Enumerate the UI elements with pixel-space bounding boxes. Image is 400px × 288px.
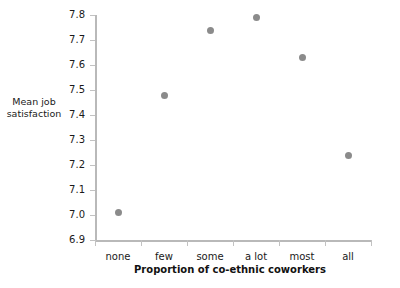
y-axis-tick	[90, 165, 95, 166]
x-axis-tick-label-all: all	[318, 251, 378, 262]
data-point	[161, 92, 168, 99]
y-axis-tick	[90, 215, 95, 216]
y-axis-tick	[90, 115, 95, 116]
y-axis-tick-label: 7.1	[51, 185, 85, 195]
y-axis-tick-label: 7.5	[51, 85, 85, 95]
y-axis-tick	[90, 15, 95, 16]
data-point	[345, 152, 352, 159]
y-axis-tick	[90, 90, 95, 91]
y-axis-tick	[90, 65, 95, 66]
x-axis-tick	[187, 240, 188, 246]
x-axis-tick	[279, 240, 280, 246]
data-point	[207, 27, 214, 34]
data-point	[253, 14, 260, 21]
y-axis-tick-label: 7.8	[51, 10, 85, 20]
y-axis-tick-label: 7.0	[51, 210, 85, 220]
x-axis-tick	[141, 240, 142, 246]
y-axis-tick	[90, 140, 95, 141]
y-axis-tick-label: 6.9	[51, 235, 85, 245]
x-axis-tick	[95, 240, 96, 246]
y-axis-tick-label: 7.4	[51, 110, 85, 120]
x-axis-tick	[325, 240, 326, 246]
y-axis-tick-label: 7.3	[51, 135, 85, 145]
y-axis-line	[95, 15, 97, 241]
y-axis-tick	[90, 40, 95, 41]
x-axis-tick	[371, 240, 372, 246]
y-axis-tick	[90, 190, 95, 191]
x-axis-title: Proportion of co-ethnic coworkers	[60, 264, 400, 275]
x-axis-tick	[233, 240, 234, 246]
data-point	[299, 54, 306, 61]
scatter-plot-figure: Mean job satisfaction 7.87.77.67.57.47.3…	[0, 0, 400, 288]
y-axis-tick-label: 7.2	[51, 160, 85, 170]
y-axis-tick-label: 7.7	[51, 35, 85, 45]
plot-area: 7.87.77.67.57.47.37.27.17.06.9nonefewsom…	[95, 15, 371, 240]
data-point	[115, 209, 122, 216]
y-axis-tick-label: 7.6	[51, 60, 85, 70]
